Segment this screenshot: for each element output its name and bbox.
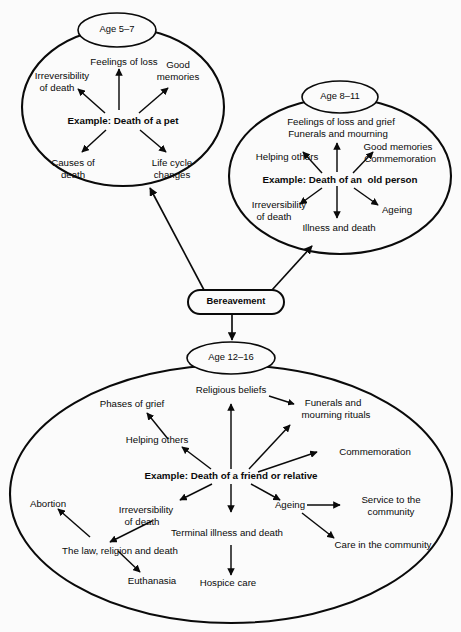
ring-label-age-5-7: Age 5–7 — [100, 23, 135, 34]
node-euthanasia: Euthanasia — [128, 575, 177, 586]
node-helping-others: Helping others — [256, 151, 319, 162]
node-funerals-rituals-line-1: Funerals and — [305, 397, 362, 408]
node-ageing: Ageing — [382, 204, 412, 215]
ring-label-age-12-16: Age 12–16 — [208, 351, 253, 362]
link-example-to-funerals-rituals — [249, 425, 290, 469]
link-example-to-irreversibility — [180, 484, 212, 500]
node-good-memories-line-2: memories — [157, 71, 200, 82]
cluster-age-12-16: Age 12–16 Religious beliefs Funerals and… — [10, 342, 452, 623]
node-care-in-the-community: Care in the community — [335, 539, 432, 550]
link-example-to-life-cycle-changes — [140, 130, 166, 152]
node-abortion: Abortion — [30, 498, 66, 509]
link-the-law-to-abortion — [58, 509, 90, 537]
link-example-to-helping-others — [182, 447, 211, 469]
node-irreversibility-of-death-line-2: of death — [124, 516, 159, 527]
node-feelings-of-loss: Feelings of loss — [90, 56, 157, 67]
ring-label-age-8-11: Age 8–11 — [320, 90, 359, 101]
node-funerals-and-mourning: Funerals and mourning — [288, 128, 388, 139]
example-age-12-16: Example: Death of a friend or relative — [144, 470, 318, 481]
link-bereavement-to-age-5-7 — [150, 188, 204, 290]
node-irreversibility-of-death-line-2: of death — [39, 82, 74, 93]
node-religious-beliefs: Religious beliefs — [196, 384, 267, 395]
node-terminal-illness-and-death: Terminal illness and death — [171, 527, 283, 538]
node-hospice-care: Hospice care — [200, 577, 257, 588]
link-bereavement-to-age-8-11 — [272, 246, 312, 290]
node-commemoration: Commemoration — [364, 153, 436, 164]
node-helping-others: Helping others — [126, 434, 189, 445]
node-irreversibility-of-death-line-1: Irreversibility — [119, 504, 174, 515]
cluster-age-5-7: Age 5–7 Feelings of loss Good memories I… — [22, 13, 224, 186]
link-example-to-good-memories — [139, 88, 168, 113]
node-life-cycle-changes-line-1: Life cycle — [152, 157, 192, 168]
cluster-age-8-11: Age 8–11 Feelings of loss and grief Fune… — [229, 81, 451, 254]
link-ageing-to-care-in-the-community — [302, 513, 334, 538]
node-service-to-the-community-line-1: Service to the — [361, 494, 420, 505]
node-feelings-of-loss-and-grief: Feelings of loss and grief — [287, 116, 395, 127]
example-age-5-7: Example: Death of a pet — [67, 115, 179, 126]
node-causes-of-death-line-2: death — [61, 169, 85, 180]
node-funerals-rituals-line-2: mourning rituals — [302, 409, 371, 420]
node-commemoration: Commemoration — [339, 446, 411, 457]
centre-node: Bereavement — [188, 290, 284, 314]
node-service-to-the-community-line-2: community — [368, 506, 415, 517]
centre-label-bereavement: Bereavement — [207, 295, 266, 306]
link-example-to-causes-of-death — [82, 130, 106, 152]
link-religious-beliefs-to-funerals-rituals — [269, 396, 294, 404]
node-good-memories-line-1: Good — [166, 59, 190, 70]
concept-map-page: Age 5–7 Feelings of loss Good memories I… — [0, 0, 461, 632]
node-phases-of-grief: Phases of grief — [100, 398, 165, 409]
node-irreversibility-of-death-line-2: of death — [256, 211, 291, 222]
node-life-cycle-changes-line-2: changes — [154, 169, 191, 180]
node-causes-of-death-line-1: Causes of — [51, 157, 95, 168]
node-ageing: Ageing — [275, 499, 305, 510]
node-illness-and-death: Illness and death — [302, 222, 375, 233]
example-age-8-11: Example: Death of an old person — [262, 174, 417, 185]
node-good-memories: Good memories — [364, 141, 433, 152]
bereavement-concept-map: Age 5–7 Feelings of loss Good memories I… — [0, 0, 461, 632]
node-irreversibility-of-death-line-1: Irreversibility — [252, 199, 307, 210]
link-example-to-ageing — [354, 188, 378, 205]
link-example-to-irreversibility — [78, 89, 105, 113]
node-the-law-religion-and-death: The law, religion and death — [62, 545, 178, 556]
node-irreversibility-of-death-line-1: Irreversibility — [35, 70, 90, 81]
